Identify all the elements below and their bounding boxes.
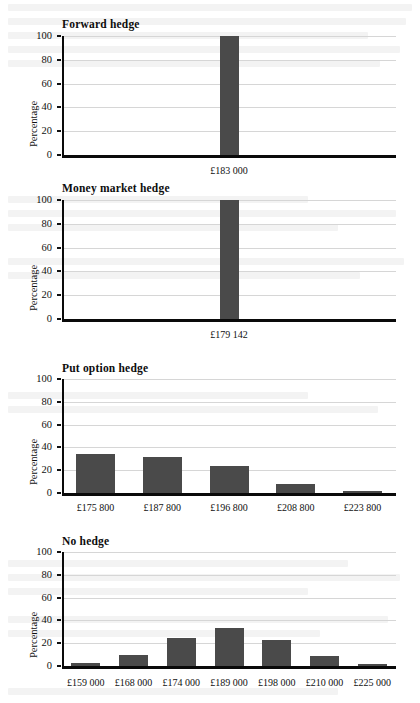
y-tick-mark (57, 492, 61, 494)
y-tick-label: 100 (28, 31, 52, 42)
x-axis-baseline (62, 319, 396, 322)
y-tick-label: 0 (28, 150, 52, 161)
y-tick-mark (57, 106, 61, 108)
y-tick-mark (57, 469, 61, 471)
y-tick-label: 40 (28, 102, 52, 113)
y-tick-label: 100 (28, 547, 52, 558)
y-tick-label: 100 (28, 195, 52, 206)
x-tick-label: £183 000 (184, 165, 274, 176)
y-tick-label: 40 (28, 442, 52, 453)
gridline (62, 470, 396, 471)
y-tick-mark (57, 83, 61, 85)
gridline (62, 200, 396, 201)
y-axis-label: Percentage (28, 439, 39, 485)
x-tick-label: £174 000 (136, 677, 226, 688)
y-tick-label: 60 (28, 79, 52, 90)
bar (71, 663, 100, 666)
x-tick-label: £187 800 (117, 502, 207, 513)
gridline (62, 425, 396, 426)
x-axis-baseline (62, 493, 396, 496)
y-tick-mark (57, 619, 61, 621)
y-axis-line (62, 200, 64, 320)
x-tick-label: £179 142 (184, 329, 274, 340)
gridline (62, 131, 396, 132)
y-tick-label: 60 (28, 420, 52, 431)
y-tick-mark (57, 597, 61, 599)
chart-title: Money market hedge (62, 182, 170, 194)
x-tick-label: £175 800 (50, 502, 140, 513)
y-tick-mark (57, 318, 61, 320)
y-axis-label: Percentage (28, 612, 39, 658)
y-tick-mark (57, 247, 61, 249)
y-tick-mark (57, 574, 61, 576)
x-tick-label: £196 800 (184, 502, 274, 513)
y-tick-mark (57, 424, 61, 426)
y-tick-label: 80 (28, 55, 52, 66)
y-tick-mark (57, 35, 61, 37)
y-axis-label: Percentage (28, 101, 39, 147)
gridline (62, 60, 396, 61)
y-tick-mark (57, 130, 61, 132)
bar (167, 638, 196, 667)
chart-panel-4: No hedgePercentage020406080100£159 000£1… (0, 0, 420, 703)
x-tick-label: £159 000 (41, 677, 131, 688)
y-tick-label: 0 (28, 314, 52, 325)
y-tick-label: 80 (28, 397, 52, 408)
bar (343, 491, 382, 493)
y-tick-mark (57, 378, 61, 380)
x-tick-label: £210 000 (279, 677, 369, 688)
y-tick-mark (57, 59, 61, 61)
y-axis-label: Percentage (28, 265, 39, 311)
y-tick-mark (57, 154, 61, 156)
gridline (62, 36, 396, 37)
x-axis-baseline (62, 155, 396, 158)
y-tick-label: 20 (28, 290, 52, 301)
x-tick-label: £198 000 (232, 677, 322, 688)
y-tick-label: 20 (28, 465, 52, 476)
y-tick-label: 0 (28, 488, 52, 499)
y-tick-label: 80 (28, 219, 52, 230)
chart-title: Put option hedge (62, 362, 148, 374)
bar (143, 457, 182, 493)
bar (76, 454, 115, 493)
bar (276, 484, 315, 493)
y-tick-mark (57, 665, 61, 667)
gridline (62, 379, 396, 380)
y-tick-label: 60 (28, 243, 52, 254)
gridline (62, 552, 396, 553)
y-tick-mark (57, 642, 61, 644)
y-tick-label: 40 (28, 266, 52, 277)
y-tick-label: 100 (28, 374, 52, 385)
y-tick-label: 40 (28, 615, 52, 626)
chart-panel-1: Forward hedgePercentage020406080100£183 … (0, 0, 420, 703)
x-tick-label: £223 800 (318, 502, 408, 513)
y-tick-label: 80 (28, 570, 52, 581)
gridline (62, 598, 396, 599)
x-tick-label: £208 800 (251, 502, 341, 513)
gridline (62, 620, 396, 621)
y-tick-label: 20 (28, 638, 52, 649)
bar (220, 200, 239, 319)
gridline (62, 248, 396, 249)
gridline (62, 295, 396, 296)
y-tick-mark (57, 199, 61, 201)
gridline (62, 224, 396, 225)
chart-title: No hedge (62, 535, 109, 547)
figure-panel-stack: Forward hedgePercentage020406080100£183 … (0, 0, 420, 703)
x-tick-label: £168 000 (89, 677, 179, 688)
bar (262, 640, 291, 666)
y-tick-label: 0 (28, 661, 52, 672)
y-tick-mark (57, 446, 61, 448)
chart-panel-2: Money market hedgePercentage020406080100… (0, 0, 420, 703)
bar (310, 656, 339, 666)
bar (210, 466, 249, 493)
bar (119, 655, 148, 666)
y-axis-line (62, 552, 64, 667)
x-tick-label: £225 000 (327, 677, 417, 688)
gridline (62, 271, 396, 272)
gridline (62, 107, 396, 108)
gridline (62, 84, 396, 85)
bar (215, 628, 244, 666)
x-tick-label: £189 000 (184, 677, 274, 688)
gridline (62, 643, 396, 644)
